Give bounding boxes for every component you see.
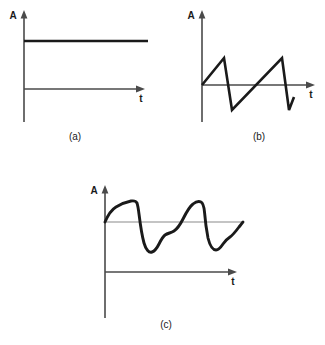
panel-c-y-axis-label: A <box>90 185 97 196</box>
panel-a-x-axis-label: t <box>139 93 143 104</box>
panel-c <box>102 185 243 318</box>
panel-c-waveform-distorted-sawtooth <box>105 201 243 252</box>
panel-c-x-axis-arrow-icon <box>228 269 237 276</box>
waveform-figure: A t (a) A t (b) A t (c) <box>0 0 325 345</box>
panel-b-caption: (b) <box>253 131 265 142</box>
panel-a-x-axis-arrow-icon <box>136 86 145 93</box>
panel-b-x-axis-label: t <box>309 89 313 100</box>
panel-b-x-axis-arrow-icon <box>306 82 315 89</box>
panel-c-y-axis-arrow-icon <box>102 185 109 194</box>
panel-b-waveform-sawtooth <box>202 58 294 110</box>
panel-a <box>21 10 148 122</box>
panel-a-caption: (a) <box>69 131 81 142</box>
panel-b-y-axis-arrow-icon <box>199 10 206 19</box>
panel-c-caption: (c) <box>160 319 172 330</box>
panel-a-y-axis-label: A <box>9 10 16 21</box>
panel-b <box>199 10 315 122</box>
panel-a-y-axis-arrow-icon <box>21 10 28 19</box>
waveform-figure-canvas: A t (a) A t (b) A t (c) <box>0 0 325 345</box>
panel-b-y-axis-label: A <box>187 10 194 21</box>
panel-c-x-axis-label: t <box>231 276 235 287</box>
